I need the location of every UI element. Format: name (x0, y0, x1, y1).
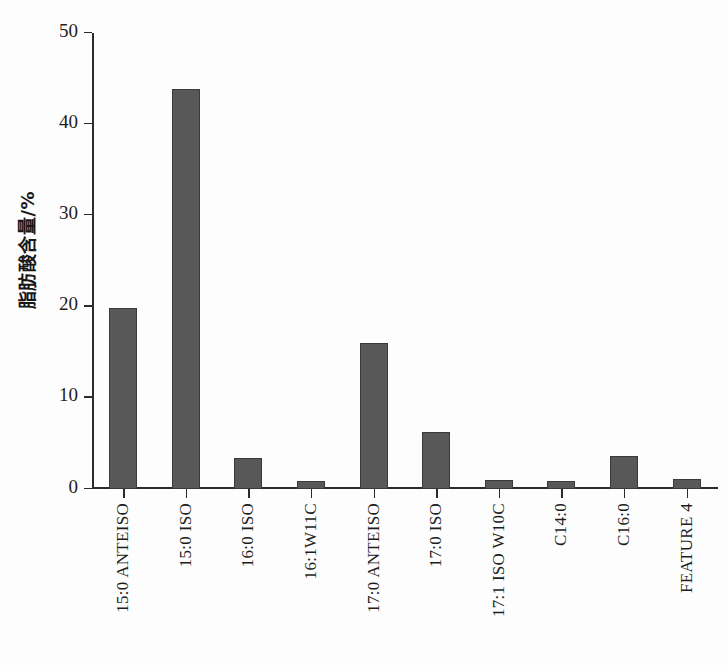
x-axis-category-label: 17:0 ISO (436, 439, 456, 503)
x-axis-category-label-text: 17:1 ISO W10C (489, 503, 509, 617)
bar-group: C14:0 (530, 33, 593, 489)
x-axis-category-label-text: 15:0 ISO (176, 503, 196, 567)
x-axis-category-label: 15:0 ISO (186, 439, 206, 503)
x-axis-category-label: 17:1 ISO W10C (499, 389, 519, 503)
y-axis-tick-label: 20 (59, 294, 78, 314)
bar-group: 17:0 ISO (405, 33, 468, 489)
x-axis-category-label: 17:0 ANTEISO (374, 393, 394, 503)
bar-group: 16:1W11C (280, 33, 343, 489)
y-axis-tick-label: 0 (69, 477, 79, 497)
x-axis-category-label: 15:0 ANTEISO (123, 393, 143, 503)
y-axis-title: 脂肪酸含量/% (8, 150, 44, 350)
bar-group: 15:0 ANTEISO (92, 33, 155, 489)
y-axis-tick-label: 30 (59, 203, 78, 223)
x-axis-category-label-text: FEATURE 4 (677, 503, 697, 593)
x-axis-category-label-text: 16:0 ISO (238, 503, 258, 567)
bar[interactable] (172, 89, 200, 489)
bar-chart-figure: 脂肪酸含量/% 50403020100 15:0 ANTEISO15:0 ISO… (0, 0, 728, 665)
x-axis-category-label: C14:0 (561, 460, 581, 503)
y-axis-tick: 0 (84, 488, 92, 489)
y-axis-tick: 10 (84, 396, 92, 397)
x-axis-category-label-text: C16:0 (614, 503, 634, 546)
x-axis-category-label-text: C14:0 (551, 503, 571, 546)
x-axis-category-label: C16:0 (624, 460, 644, 503)
bar-group: 17:1 ISO W10C (468, 33, 531, 489)
y-axis-tick: 40 (84, 123, 92, 124)
plot-area: 50403020100 15:0 ANTEISO15:0 ISO16:0 ISO… (92, 33, 718, 489)
x-axis-category-label-text: 15:0 ANTEISO (113, 503, 133, 613)
x-axis-category-label-text: 17:0 ANTEISO (364, 503, 384, 613)
y-axis-tick: 30 (84, 214, 92, 215)
bar-group: FEATURE 4 (655, 33, 718, 489)
bar-group: 16:0 ISO (217, 33, 280, 489)
x-axis-category-label-text: 16:1W11C (301, 503, 321, 579)
y-axis-title-text: 脂肪酸含量/% (13, 191, 39, 309)
x-axis-category-label: 16:0 ISO (248, 439, 268, 503)
y-axis-tick-label: 10 (59, 385, 78, 405)
bar-group: C16:0 (593, 33, 656, 489)
y-axis-tick-label: 40 (59, 112, 78, 132)
y-axis-tick: 50 (84, 32, 92, 33)
bar-group: 15:0 ISO (155, 33, 218, 489)
bar-group: 17:0 ANTEISO (342, 33, 405, 489)
x-axis-category-label: 16:1W11C (311, 427, 331, 503)
x-axis-category-label-text: 17:0 ISO (426, 503, 446, 567)
y-axis-tick-label: 50 (59, 21, 78, 41)
x-axis-category-label: FEATURE 4 (687, 413, 707, 503)
y-axis-tick: 20 (84, 305, 92, 306)
